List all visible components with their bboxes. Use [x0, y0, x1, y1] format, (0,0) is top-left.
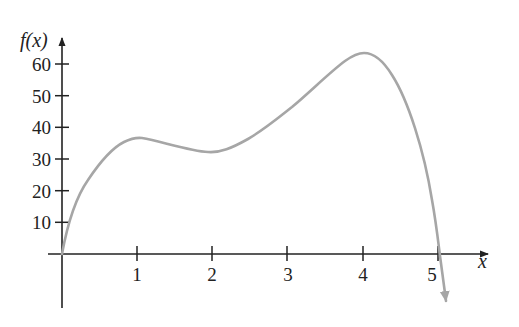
x-tick-label: 5: [427, 264, 437, 285]
x-tick-label: 4: [358, 264, 368, 285]
x-tick-label: 3: [283, 264, 293, 285]
y-tick-label: 10: [32, 212, 51, 233]
y-tick-labels: 10 20 30 40 50 60: [32, 54, 51, 233]
y-tick-label: 20: [32, 181, 51, 202]
function-graph: 10 20 30 40 50 60 1 2 3 4 5 f(x) x: [0, 0, 519, 327]
function-curve: [62, 53, 446, 301]
y-tick-label: 50: [32, 86, 51, 107]
x-tick-label: 2: [207, 264, 217, 285]
x-axis-label: x: [477, 250, 487, 272]
y-tick-label: 30: [32, 149, 51, 170]
y-tick-label: 60: [32, 54, 51, 75]
y-axis-label: f(x): [20, 29, 48, 52]
x-tick-labels: 1 2 3 4 5: [132, 264, 437, 285]
y-tick-label: 40: [32, 117, 51, 138]
x-tick-label: 1: [132, 264, 142, 285]
